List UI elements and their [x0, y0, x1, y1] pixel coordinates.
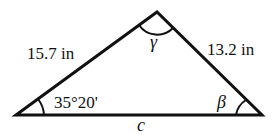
right-angle-arc [236, 100, 246, 115]
top-angle-label: γ [150, 32, 158, 52]
right-angle-label: β [216, 92, 226, 112]
left-angle-label: 35°20' [54, 93, 98, 112]
left-side-label: 15.7 in [27, 44, 75, 63]
base-label: c [137, 115, 145, 135]
right-side-label: 13.2 in [207, 40, 255, 59]
left-angle-arc [38, 99, 44, 115]
triangle-diagram: 15.7 in 13.2 in c 35°20' γ β [0, 0, 277, 137]
